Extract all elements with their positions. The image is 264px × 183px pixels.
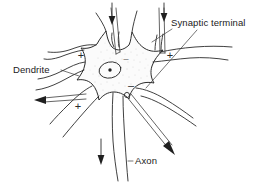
- synaptic-terminal-right-edge: [161, 34, 163, 50]
- electrode-diagonal-arrowhead: [163, 141, 175, 155]
- sign-minus-hillock: –: [128, 79, 135, 91]
- dendrite-top-left-branch: [96, 13, 106, 31]
- axon-group: [112, 92, 129, 181]
- label-axon-group: Axon: [128, 155, 157, 166]
- label-dendrite-group: Dendrite: [13, 64, 79, 76]
- sign-plus-upper-left: +: [78, 49, 84, 61]
- electrode-top-right-shaft-a: [159, 8, 160, 53]
- electrode-diagonal-shaft-b: [131, 94, 172, 145]
- neuron-diagram-canvas: + + + – – Synaptic terminal Dendrite Axo…: [0, 0, 264, 183]
- label-dendrite: Dendrite: [13, 64, 50, 75]
- electrode-diagonal: [127, 94, 175, 155]
- axon-edge: [123, 96, 128, 181]
- axon-flow-arrowhead: [98, 155, 105, 165]
- electrode-top-left-shaft-b: [116, 8, 120, 52]
- sign-minus-top: –: [123, 54, 128, 64]
- axon-flow-arrow: [98, 139, 105, 165]
- sign-plus-right: +: [167, 49, 173, 61]
- dendrite-lower-right: [136, 88, 193, 118]
- label-axon: Axon: [135, 155, 157, 166]
- electrode-top-right: [159, 3, 167, 53]
- soma-group: [77, 31, 163, 100]
- nucleolus: [108, 68, 111, 71]
- electrode-top-right-arrowhead: [161, 13, 168, 22]
- label-synaptic-terminal: Synaptic terminal: [171, 17, 246, 28]
- neuron-figure: + + + – – Synaptic terminal Dendrite Axo…: [0, 0, 264, 183]
- synaptic-terminal-right: [155, 35, 157, 50]
- electrode-left-shaft-a: [44, 94, 86, 98]
- axon: [112, 93, 118, 181]
- electrode-top-left-arrowhead: [109, 16, 116, 25]
- electrode-left-arrowhead: [34, 96, 46, 104]
- dendrite-right-edge: [153, 58, 228, 62]
- sign-plus-lower-left: +: [75, 100, 81, 112]
- dendrite-top-right-branch: [132, 11, 137, 32]
- dendrite-lower-right-edge: [141, 96, 196, 126]
- dendrite-lower-left: [50, 86, 92, 124]
